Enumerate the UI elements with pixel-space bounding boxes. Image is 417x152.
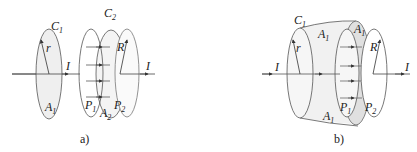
label-R: R — [116, 40, 125, 54]
panel-b: C1 A1 A1 A1 r R I I P1 P2 b) — [262, 13, 410, 146]
label-c1: C1 — [294, 13, 306, 29]
caption-b: b) — [334, 132, 344, 146]
label-current-out: I — [404, 60, 410, 74]
panel-a: C1 C2 r R I I A1 P1 A2 P2 a) — [12, 6, 155, 146]
label-current-in: I — [65, 59, 71, 73]
label-p1: P1 — [84, 98, 96, 114]
label-c1: C1 — [51, 19, 63, 35]
label-R: R — [369, 40, 378, 54]
label-c2: C2 — [104, 6, 116, 22]
caption-a: a) — [80, 132, 89, 146]
label-r: r — [296, 41, 301, 55]
label-current-in: I — [274, 60, 280, 74]
label-current-out: I — [145, 59, 151, 73]
capacitor-ampere-diagram: C1 C2 r R I I A1 P1 A2 P2 a) — [0, 0, 417, 152]
label-r: r — [46, 41, 51, 55]
label-a1-right: A1 — [353, 22, 365, 38]
